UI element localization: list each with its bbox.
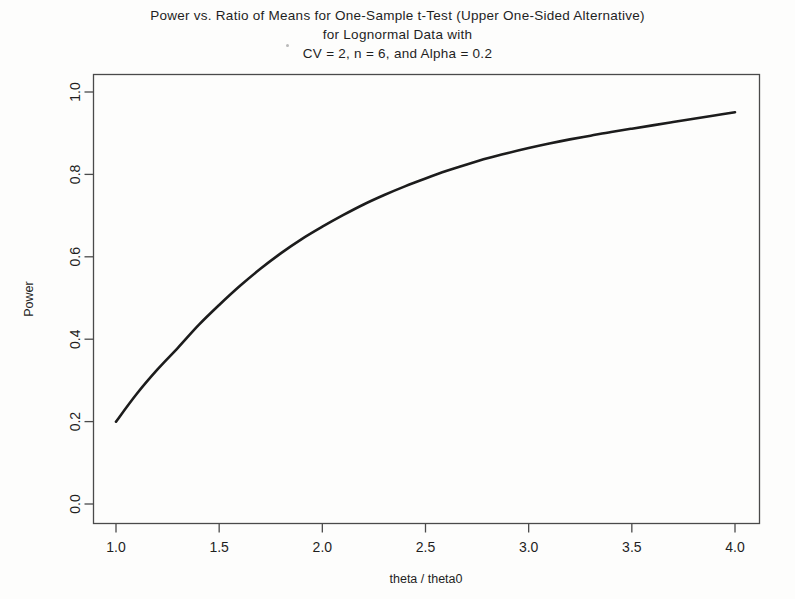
y-tick-label: 0.0 bbox=[67, 494, 83, 514]
y-tick-label: 0.6 bbox=[67, 247, 83, 267]
plot-frame bbox=[94, 75, 760, 524]
x-tick-label: 4.0 bbox=[725, 539, 745, 555]
x-tick-label: 3.0 bbox=[519, 539, 539, 555]
x-axis-title: theta / theta0 bbox=[390, 572, 463, 586]
x-tick-label: 2.5 bbox=[416, 539, 436, 555]
y-axis-ticks: 0.00.20.40.60.81.0 bbox=[67, 82, 93, 514]
x-tick-label: 3.5 bbox=[622, 539, 642, 555]
x-tick-label: 2.0 bbox=[313, 539, 333, 555]
power-curve bbox=[116, 112, 735, 421]
figure-canvas: Power vs. Ratio of Means for One-Sample … bbox=[0, 0, 795, 599]
x-tick-label: 1.0 bbox=[106, 539, 126, 555]
y-tick-label: 1.0 bbox=[67, 82, 83, 102]
x-tick-label: 1.5 bbox=[209, 539, 229, 555]
y-tick-label: 0.2 bbox=[67, 412, 83, 432]
y-axis-title: Power bbox=[22, 281, 36, 316]
y-tick-label: 0.4 bbox=[67, 329, 83, 349]
x-axis-ticks: 1.01.52.02.53.03.54.0 bbox=[106, 524, 745, 555]
y-tick-label: 0.8 bbox=[67, 164, 83, 184]
plot-area: 1.01.52.02.53.03.54.0 0.00.20.40.60.81.0… bbox=[0, 0, 795, 599]
